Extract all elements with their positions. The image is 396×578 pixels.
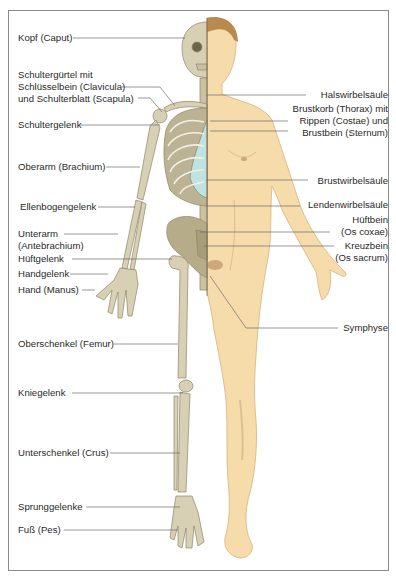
label-kopf: Kopf (Caput) [18,32,72,44]
label-kreuzbein: Kreuzbein (Os sacrum) [335,240,388,264]
label-hand: Hand (Manus) [18,284,79,296]
label-lendenwirbelsaule: Lendenwirbelsäule [308,199,388,211]
label-ellenbogengelenk: Ellenbogengelenk [20,201,96,213]
label-symphyse: Symphyse [343,322,388,334]
label-schultergelenk: Schultergelenk [18,119,81,131]
label-fuss: Fuß (Pes) [18,524,61,536]
label-sprunggelenke: Sprunggelenke [18,501,83,513]
label-unterarm: Unterarm (Antebrachium) [18,228,84,252]
label-kniegelenk: Kniegelenk [18,387,65,399]
label-brustkorb: Brustkorb (Thorax) mit Rippen (Costae) u… [293,103,388,139]
label-handgelenk: Handgelenk [18,268,69,280]
label-oberschenkel: Oberschenkel (Femur) [18,338,114,350]
label-brustwirbelsaule: Brustwirbelsäule [318,175,388,187]
label-oberarm: Oberarm (Brachium) [18,161,105,173]
label-unterschenkel: Unterschenkel (Crus) [18,447,109,459]
label-huftbein: Hüftbein (Os coxae) [341,214,388,238]
label-huftgelenk: Hüftgelenk [18,253,64,265]
label-halswirbelsaule: Halswirbelsäule [321,89,388,101]
label-schultergurtel: Schultergürtel mit Schlüsselbein (Clavic… [18,69,134,105]
